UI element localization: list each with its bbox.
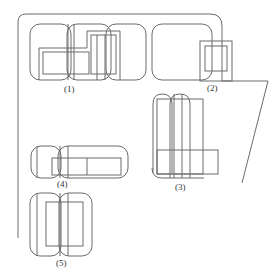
label-4: (4) [57,179,68,189]
label-3: (3) [175,182,186,192]
group-2: (2) [152,24,232,93]
diagram-canvas: (1) (2) (3) (4) (5) [0,0,280,279]
label-2: (2) [207,83,218,93]
group-3: (3) [152,94,218,192]
label-1: (1) [64,84,75,94]
label-5: (5) [56,258,67,268]
group-5: (5) [30,193,92,268]
group-4: (4) [31,146,128,189]
group-1: (1) [30,24,146,94]
